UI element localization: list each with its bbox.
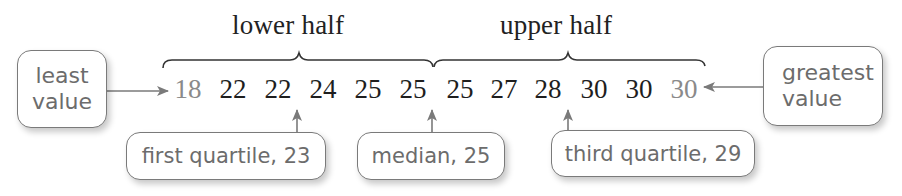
lower-half-label: lower half (232, 10, 344, 41)
upper-half-label: upper half (500, 10, 612, 41)
least-value-callout: least value (17, 50, 107, 128)
data-value: 30 (574, 74, 614, 105)
least-value-line2: value (32, 89, 92, 115)
data-value: 22 (213, 74, 253, 105)
data-value: 30 (619, 74, 659, 105)
least-value-line1: least (35, 63, 88, 89)
greatest-value-callout: greatest value (763, 46, 883, 126)
data-value: 25 (393, 74, 433, 105)
upper-half-brace (434, 53, 705, 67)
greatest-value-line2: value (782, 86, 842, 112)
third-quartile-callout: third quartile, 29 (551, 130, 755, 177)
data-value: 28 (528, 74, 568, 105)
data-value: 24 (303, 74, 343, 105)
data-value: 27 (484, 74, 524, 105)
first-quartile-callout: first quartile, 23 (126, 132, 326, 180)
lower-half-brace (163, 53, 433, 68)
greatest-value-line1: greatest (782, 60, 874, 86)
five-number-summary-diagram: lower half upper half 18 22 22 24 25 25 … (0, 0, 902, 196)
data-value-greatest: 30 (664, 74, 704, 105)
data-value: 22 (258, 74, 298, 105)
data-value: 25 (348, 74, 388, 105)
median-callout: median, 25 (357, 132, 505, 180)
data-value-least: 18 (168, 74, 208, 105)
data-value: 25 (440, 74, 480, 105)
